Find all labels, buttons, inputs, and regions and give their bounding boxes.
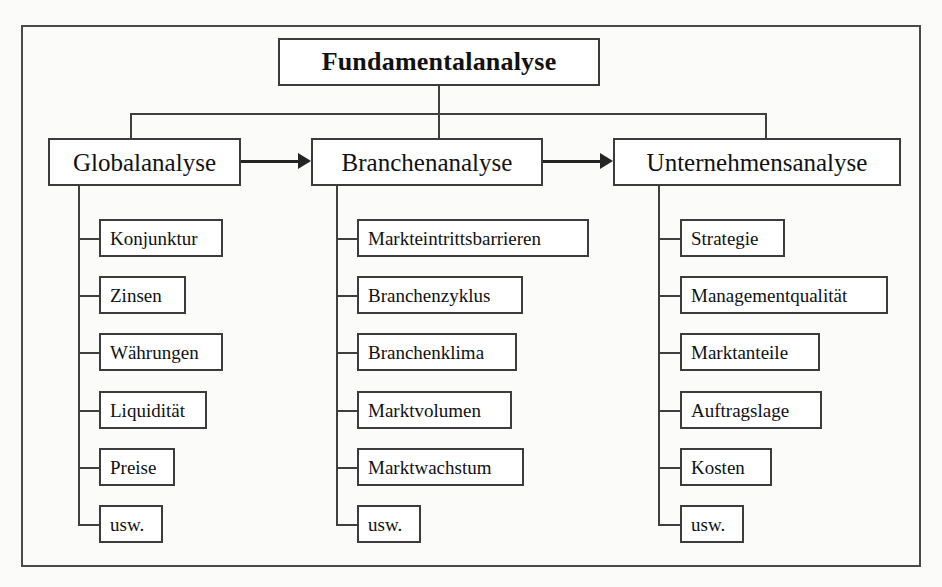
connector-drop-globalanalyse bbox=[130, 113, 132, 139]
connector-tick-global-0 bbox=[78, 238, 100, 240]
connector-spine-branchenanalyse bbox=[336, 186, 338, 524]
leaf-branchenzyklus[interactable]: Branchenzyklus bbox=[357, 276, 523, 314]
connector-tick-branche-5 bbox=[336, 524, 358, 526]
leaf-global-usw[interactable]: usw. bbox=[99, 505, 163, 543]
arrow-branche-to-unternehmen-line bbox=[543, 160, 600, 163]
leaf-branchenklima[interactable]: Branchenklima bbox=[357, 333, 517, 371]
connector-tick-unternehmen-0 bbox=[658, 238, 681, 240]
connector-tick-branche-3 bbox=[336, 410, 358, 412]
arrow-branche-to-unternehmen-head bbox=[600, 153, 613, 169]
diagram-canvas: Fundamentalanalyse Globalanalyse Branche… bbox=[0, 0, 942, 587]
connector-tick-unternehmen-1 bbox=[658, 295, 681, 297]
leaf-zinsen[interactable]: Zinsen bbox=[99, 276, 186, 314]
arrow-global-to-branche-line bbox=[241, 160, 298, 163]
connector-tick-branche-4 bbox=[336, 467, 358, 469]
connector-tick-unternehmen-2 bbox=[658, 352, 681, 354]
leaf-preise[interactable]: Preise bbox=[99, 448, 175, 486]
leaf-marktwachstum[interactable]: Marktwachstum bbox=[357, 448, 524, 486]
node-root[interactable]: Fundamentalanalyse bbox=[278, 38, 600, 86]
connector-tick-branche-0 bbox=[336, 238, 358, 240]
leaf-strategie[interactable]: Strategie bbox=[680, 219, 785, 257]
connector-spine-unternehmensanalyse bbox=[658, 186, 660, 524]
leaf-branche-usw[interactable]: usw. bbox=[357, 505, 421, 543]
connector-tick-global-5 bbox=[78, 524, 100, 526]
node-unternehmensanalyse[interactable]: Unternehmensanalyse bbox=[613, 138, 901, 186]
leaf-unternehmen-usw[interactable]: usw. bbox=[680, 505, 744, 543]
leaf-markteintrittsbarrieren[interactable]: Markteintrittsbarrieren bbox=[357, 219, 589, 257]
node-branchenanalyse[interactable]: Branchenanalyse bbox=[311, 138, 543, 186]
connector-distribution-bar bbox=[130, 113, 767, 115]
leaf-marktvolumen[interactable]: Marktvolumen bbox=[357, 391, 512, 429]
leaf-kosten[interactable]: Kosten bbox=[680, 448, 772, 486]
connector-drop-branchenanalyse bbox=[438, 113, 440, 139]
connector-tick-global-3 bbox=[78, 410, 100, 412]
connector-tick-global-4 bbox=[78, 467, 100, 469]
node-globalanalyse[interactable]: Globalanalyse bbox=[48, 138, 241, 186]
arrow-global-to-branche-head bbox=[298, 153, 311, 169]
connector-tick-branche-1 bbox=[336, 295, 358, 297]
connector-spine-globalanalyse bbox=[78, 186, 80, 524]
connector-tick-global-1 bbox=[78, 295, 100, 297]
connector-root-stem bbox=[438, 86, 440, 113]
connector-tick-unternehmen-5 bbox=[658, 524, 681, 526]
leaf-konjunktur[interactable]: Konjunktur bbox=[99, 219, 223, 257]
connector-tick-global-2 bbox=[78, 352, 100, 354]
connector-tick-unternehmen-4 bbox=[658, 467, 681, 469]
leaf-managementqualitaet[interactable]: Managementqualität bbox=[680, 276, 888, 314]
leaf-auftragslage[interactable]: Auftragslage bbox=[680, 391, 822, 429]
leaf-liquiditaet[interactable]: Liquidität bbox=[99, 391, 207, 429]
leaf-marktanteile[interactable]: Marktanteile bbox=[680, 333, 820, 371]
connector-drop-unternehmensanalyse bbox=[765, 113, 767, 139]
leaf-waehrungen[interactable]: Währungen bbox=[99, 333, 223, 371]
connector-tick-unternehmen-3 bbox=[658, 410, 681, 412]
connector-tick-branche-2 bbox=[336, 352, 358, 354]
